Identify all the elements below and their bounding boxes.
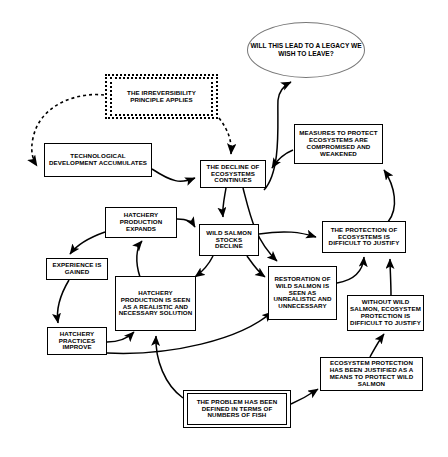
node-irreversibility[interactable]: THE IRREVERSIBILITY PRINCIPLE APPLIES (105, 74, 218, 119)
edge-practices-hatcherysolution (107, 332, 134, 342)
node-practices[interactable]: HATCHERY PRACTICES IMPROVE (47, 327, 107, 355)
node-decline-label: THE DECLINE OF ECOSYSTEMS CONTINUES (201, 164, 265, 185)
node-measures-label: MEASURES TO PROTECT ECOSYSTEMS ARE COMPR… (295, 130, 382, 158)
node-problem-label: THE PROBLEM HAS BEEN DEFINED IN TERMS OF… (188, 399, 286, 420)
edge-irreversibility-decline (219, 118, 231, 154)
edge-hatcheryexpands-wildsalmon (177, 219, 195, 227)
node-justified-label: ECOSYSTEM PROTECTION HAS BEEN JUSTIFIED … (321, 360, 422, 388)
edge-wildsalmon-hatcherysolution (195, 256, 213, 277)
node-decline[interactable]: THE DECLINE OF ECOSYSTEMS CONTINUES (200, 160, 266, 188)
node-justified[interactable]: ECOSYSTEM PROTECTION HAS BEEN JUSTIFIED … (320, 357, 423, 391)
edge-wildsalmon-protection (259, 232, 316, 237)
node-legacy-label: WILL THIS LEAD TO A LEGACY WE WISH TO LE… (248, 42, 364, 58)
node-without-wild[interactable]: WITHOUT WILD SALMON, ECOSYSTEM PROTECTIO… (347, 295, 424, 331)
diagram-canvas: WILL THIS LEAD TO A LEGACY WE WISH TO LE… (0, 0, 448, 457)
edge-wildsalmon-restoration (247, 256, 265, 277)
node-protection-difficult[interactable]: THE PROTECTION OF ECOSYSTEMS IS DIFFICUL… (322, 221, 406, 253)
node-without-wild-label: WITHOUT WILD SALMON, ECOSYSTEM PROTECTIO… (348, 299, 423, 327)
node-technological[interactable]: TECHNOLOGICAL DEVELOPMENT ACCUMULATES (44, 143, 152, 177)
node-hatchery-expands-label: HATCHERY PRODUCTION EXPANDS (106, 212, 176, 233)
edge-problem-justified (291, 389, 318, 404)
node-protection-difficult-label: THE PROTECTION OF ECOSYSTEMS IS DIFFICUL… (323, 227, 405, 248)
edge-technological-decline (152, 169, 195, 181)
edge-problem-hatcherysolution (156, 336, 183, 398)
node-hatchery-solution-label: HATCHERY PRODUCTION IS SEEN AS A REALIST… (116, 290, 195, 318)
node-measures[interactable]: MEASURES TO PROTECT ECOSYSTEMS ARE COMPR… (294, 124, 383, 164)
edge-justified-withoutwild (370, 334, 384, 357)
node-legacy[interactable]: WILL THIS LEAD TO A LEGACY WE WISH TO LE… (247, 22, 365, 78)
node-wild-salmon-decline[interactable]: WILD SALMON STOCKS DECLINE (199, 224, 259, 256)
node-problem[interactable]: THE PROBLEM HAS BEEN DEFINED IN TERMS OF… (183, 390, 291, 428)
node-practices-label: HATCHERY PRACTICES IMPROVE (48, 331, 106, 352)
edge-hatcheryexpands-experience (70, 232, 105, 254)
node-technological-label: TECHNOLOGICAL DEVELOPMENT ACCUMULATES (45, 153, 151, 167)
edge-withoutwild-protection (390, 259, 391, 296)
node-wild-salmon-decline-label: WILD SALMON STOCKS DECLINE (200, 230, 258, 251)
edge-experience-practices (57, 280, 69, 323)
node-restoration-label: RESTORATION OF WILD SALMON IS SEEN AS UN… (269, 276, 336, 311)
node-experience-label: EXPERIENCE IS GAINED (47, 262, 107, 276)
edge-restoration-protection (337, 257, 364, 283)
node-restoration[interactable]: RESTORATION OF WILD SALMON IS SEEN AS UN… (268, 266, 337, 320)
edge-protection-measures (384, 170, 395, 222)
node-irreversibility-label: THE IRREVERSIBILITY PRINCIPLE APPLIES (112, 90, 211, 104)
edge-decline-wildsalmon (223, 188, 226, 217)
node-hatchery-expands[interactable]: HATCHERY PRODUCTION EXPANDS (105, 207, 177, 238)
node-hatchery-solution[interactable]: HATCHERY PRODUCTION IS SEEN AS A REALIST… (115, 276, 196, 331)
edge-decline-legacy (264, 82, 291, 190)
node-experience[interactable]: EXPERIENCE IS GAINED (46, 258, 108, 280)
edge-hatcherysolution-hatcheryexpands (137, 241, 142, 277)
